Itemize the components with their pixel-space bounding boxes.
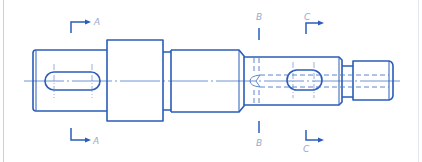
shaft-drawing: A A B B C C (0, 0, 422, 162)
section-a-bottom-label: A (92, 136, 99, 146)
section-c-top-label: C (304, 12, 311, 22)
section-c-bottom-label: C (303, 144, 310, 154)
section-b-top-label: B (256, 12, 262, 22)
right-end (353, 61, 393, 100)
neck-right (342, 66, 353, 97)
section-b-bottom-label: B (256, 138, 262, 148)
left-journal (33, 50, 107, 111)
shaft-body (33, 40, 393, 121)
collar (107, 40, 163, 121)
section-a-top-label: A (93, 17, 100, 27)
